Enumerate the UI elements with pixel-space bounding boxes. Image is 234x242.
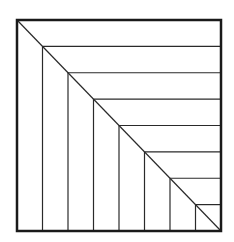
staircase-diagram bbox=[0, 0, 234, 242]
